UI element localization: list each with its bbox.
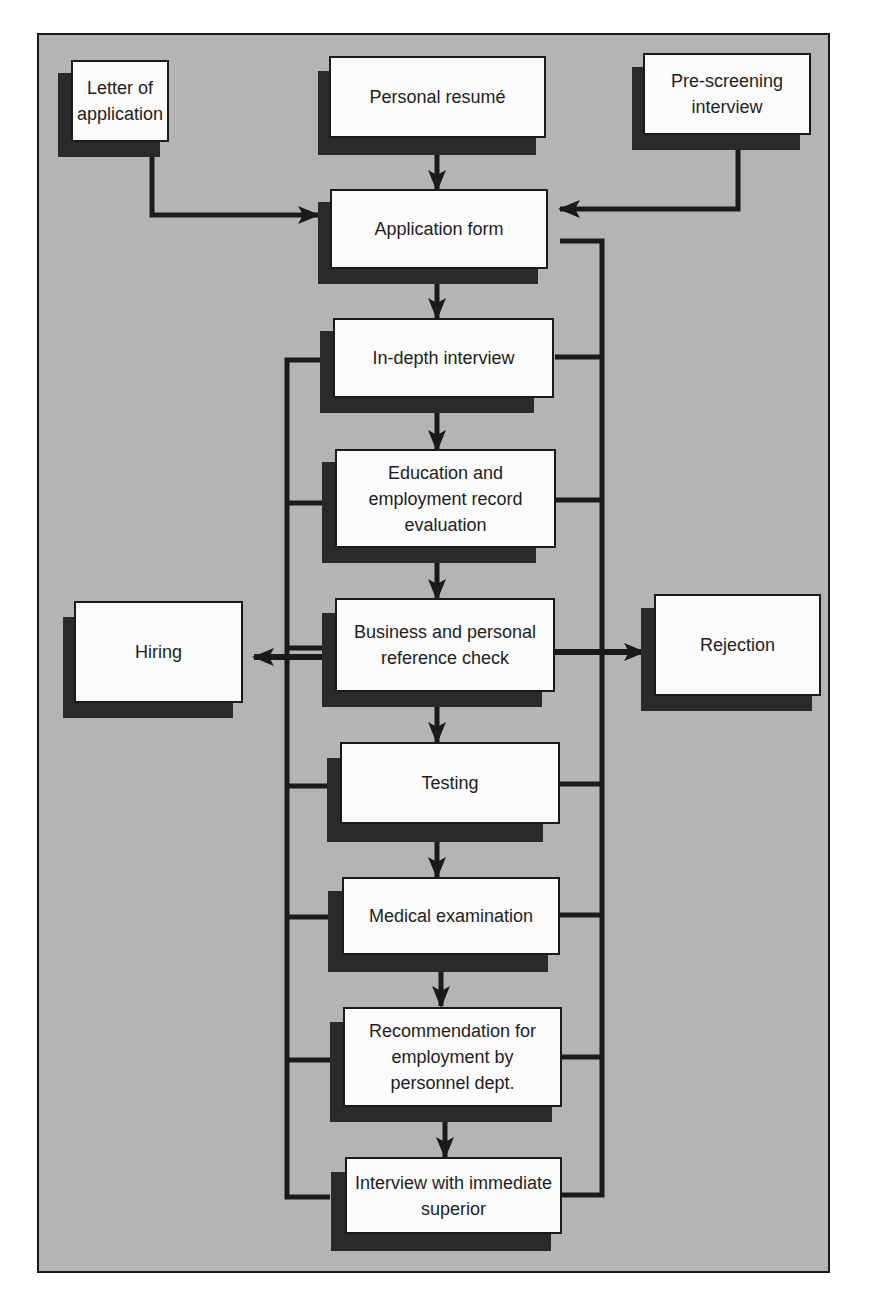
node-label: Application form [330, 189, 548, 269]
node-label: Education and employment record evaluati… [335, 449, 556, 548]
arrow-letter-to-appform [152, 155, 318, 215]
node-label: In-depth interview [333, 318, 554, 398]
node-label: Rejection [654, 594, 821, 696]
node-label: Interview with immediate superior [345, 1157, 562, 1234]
node-label: Medical examination [342, 877, 560, 955]
node-label: Business and personal reference check [335, 598, 555, 692]
arrow-prescreen-to-appform [560, 150, 738, 209]
node-label: Hiring [74, 601, 243, 703]
node-label: Personal resumé [329, 56, 546, 138]
node-label: Testing [340, 742, 560, 824]
right-bus [560, 241, 602, 1195]
node-label: Recommendation for employment by personn… [343, 1007, 562, 1107]
node-label: Pre-screening interview [643, 53, 811, 135]
node-label: Letter of application [71, 60, 169, 142]
